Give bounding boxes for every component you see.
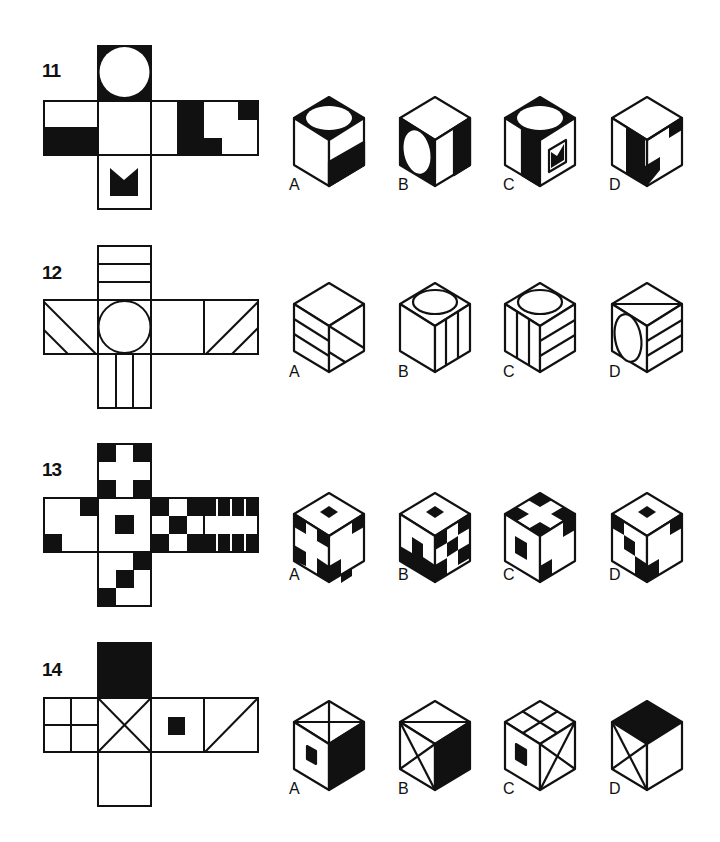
cube-option-c[interactable] <box>505 701 575 790</box>
cube-option-b[interactable] <box>400 701 470 790</box>
option-label-a: A <box>289 780 300 798</box>
option-label-c: C <box>503 780 515 798</box>
cube-option-d[interactable] <box>612 701 682 790</box>
option-label-b: B <box>398 780 409 798</box>
problem-14: 14 <box>0 0 720 842</box>
options-14 <box>0 0 720 842</box>
option-label-d: D <box>609 780 621 798</box>
cube-option-a[interactable] <box>294 701 364 790</box>
